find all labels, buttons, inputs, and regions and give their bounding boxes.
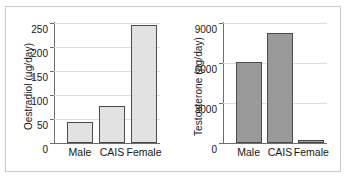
y-axis-tick <box>50 143 54 144</box>
chart-panel-oestradiol: Oestradiol (µg/day) 050100150200250 Male… <box>6 7 174 171</box>
x-tick-labels-testosterone: MaleCAISFemale <box>174 146 342 160</box>
x-axis-line-testosterone <box>223 143 327 144</box>
bar-group-testosterone <box>223 23 327 143</box>
bar <box>267 33 293 143</box>
x-axis-label: Male <box>69 146 92 158</box>
bar <box>298 140 324 143</box>
x-axis-label: Female <box>126 146 161 158</box>
plot-area-testosterone: 0300060009000 <box>223 23 327 144</box>
x-axis-label: CAIS <box>100 146 125 158</box>
bar-group-oestradiol <box>54 23 160 143</box>
x-axis-line-oestradiol <box>54 143 160 144</box>
x-tick-labels-oestradiol: MaleCAISFemale <box>6 146 174 160</box>
bar <box>131 25 157 143</box>
figure-frame: Oestradiol (µg/day) 050100150200250 Male… <box>5 6 341 172</box>
x-axis-label: Male <box>237 146 260 158</box>
y-axis-title-testosterone: Testosterone (µg/day) <box>193 27 204 147</box>
y-axis-tick <box>219 143 223 144</box>
bar <box>99 106 125 143</box>
y-axis-title-oestradiol: Oestradiol (µg/day) <box>23 27 34 147</box>
x-axis-label: CAIS <box>268 146 293 158</box>
plot-area-oestradiol: 050100150200250 <box>54 23 160 144</box>
bar <box>67 122 93 143</box>
chart-panel-testosterone: Testosterone (µg/day) 0300060009000 Male… <box>174 7 342 171</box>
x-axis-label: Female <box>294 146 329 158</box>
bar <box>236 62 262 143</box>
